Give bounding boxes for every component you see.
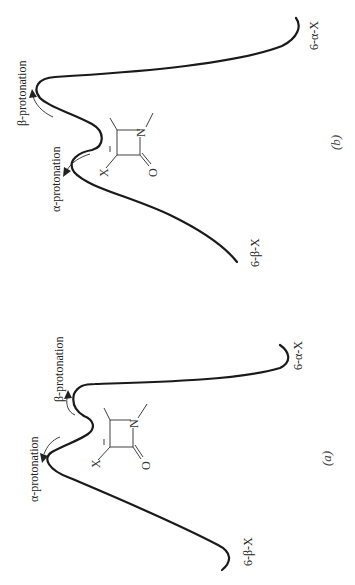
atom-n-a: N [127, 419, 141, 428]
end-label-6-alpha-x-b: 6-α-X [307, 21, 321, 50]
atom-o-b: O [146, 168, 160, 177]
alpha-protonation-arrow-b [67, 154, 90, 170]
end-label-6-alpha-x-a: 6-α-X [291, 341, 305, 370]
atom-o-a: O [139, 461, 153, 470]
atom-n-b: N [134, 128, 148, 137]
energy-curve-a [47, 345, 288, 570]
beta-lactam-structure-a: N X O [89, 404, 153, 470]
panel-label-b: (b) [328, 135, 343, 150]
panel-label-a: (a) [319, 451, 334, 466]
beta-protonation-label-b: β-protonation [15, 61, 29, 126]
energy-profile-figure: β-protonation α-protonation 6-β-X 6-α-X … [0, 0, 355, 585]
alpha-protonation-label-b: α-protonation [49, 146, 63, 212]
beta-protonation-label-a: β-protonation [52, 337, 66, 402]
end-label-6-beta-x-b: 6-β-X [248, 238, 262, 267]
panel-a: α-protonation β-protonation 6-β-X 6-α-X … [27, 337, 334, 570]
alpha-protonation-label-a: α-protonation [27, 436, 41, 502]
panel-b: β-protonation α-protonation 6-β-X 6-α-X … [15, 18, 343, 267]
alpha-arrowhead-b [63, 167, 71, 177]
atom-x-b: X [97, 168, 111, 177]
atom-x-a: X [89, 459, 103, 468]
beta-lactam-structure-b: N X O [97, 113, 160, 177]
end-label-6-beta-x-a: 6-β-X [241, 537, 255, 566]
energy-curve-b [36, 18, 298, 262]
